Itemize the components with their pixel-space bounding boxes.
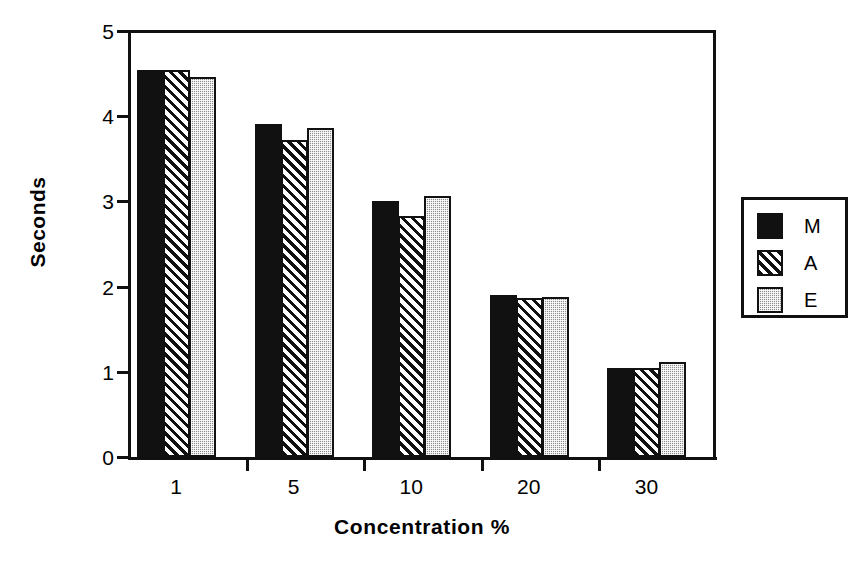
bar-e-1 (189, 77, 216, 457)
legend-swatch-m (757, 213, 783, 239)
x-axis-tick-label: 10 (366, 476, 456, 497)
legend-label-a: A (804, 253, 817, 273)
bar-m-10 (372, 201, 399, 457)
bar-m-30 (607, 368, 634, 457)
x-axis-tick-label: 1 (131, 476, 221, 497)
bar-a-1 (163, 70, 190, 457)
legend-item-m: M (757, 211, 841, 241)
legend-label-e: E (804, 290, 817, 310)
bar-e-30 (659, 362, 686, 457)
bar-e-10 (424, 196, 451, 457)
bar-m-20 (490, 295, 517, 457)
x-axis-tick-label: 5 (249, 476, 339, 497)
bar-a-5 (281, 140, 308, 457)
bar-e-20 (542, 297, 569, 457)
legend-label-m: M (804, 216, 821, 236)
bar-e-5 (307, 128, 334, 457)
chart-legend: MAE (741, 197, 848, 318)
bar-m-1 (137, 70, 164, 457)
bar-a-30 (633, 368, 660, 457)
legend-swatch-a (757, 250, 783, 276)
bar-m-5 (255, 124, 282, 457)
x-axis-tick-label: 20 (484, 476, 574, 497)
legend-item-e: E (757, 285, 841, 315)
legend-item-a: A (757, 248, 841, 278)
legend-swatch-e (757, 287, 783, 313)
x-axis-title: Concentration % (128, 515, 716, 539)
bar-chart: Seconds 012345 15102030 Concentration % … (0, 0, 866, 564)
bar-a-10 (398, 216, 425, 457)
bar-a-20 (516, 298, 543, 457)
x-axis-tick-label: 30 (601, 476, 691, 497)
